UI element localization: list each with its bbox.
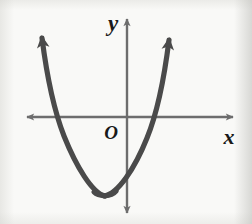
parabola-figure: y x O	[0, 0, 252, 224]
x-axis-label: x	[223, 124, 235, 149]
y-axis-label: y	[105, 11, 119, 36]
graph-canvas: y x O	[0, 0, 252, 224]
parabola-vertex	[94, 191, 116, 196]
origin-label: O	[104, 122, 118, 143]
